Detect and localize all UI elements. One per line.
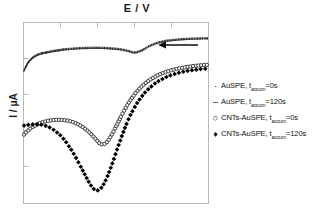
filled-diamond-marker: ♦ bbox=[210, 130, 221, 139]
legend-item-cnts-auspe-0s[interactable]: ○ CNTs-AuSPE, taccum=0s bbox=[210, 110, 329, 126]
legend-label-auspe-120s: AuSPE, taccum=120s bbox=[221, 97, 286, 108]
open-circle-marker: ○ bbox=[210, 114, 221, 123]
legend-label-auspe-0s: AuSPE, taccum=0s bbox=[221, 81, 277, 92]
legend-item-auspe-120s[interactable]: – AuSPE, taccum=120s bbox=[210, 94, 329, 110]
legend-label-cnts-auspe-0s: CNTs-AuSPE, taccum=0s bbox=[221, 113, 298, 124]
legend: · AuSPE, taccum=0s – AuSPE, taccum=120s … bbox=[210, 78, 329, 142]
voltammogram-figure: E / V I / μA · AuSPE, tacc bbox=[0, 0, 329, 215]
tiny-dot-marker: · bbox=[210, 82, 221, 91]
dash-marker: – bbox=[210, 98, 221, 107]
legend-item-cnts-auspe-120s[interactable]: ♦ CNTs-AuSPE, taccum=120s bbox=[210, 126, 329, 142]
legend-item-auspe-0s[interactable]: · AuSPE, taccum=0s bbox=[210, 78, 329, 94]
legend-label-cnts-auspe-120s: CNTs-AuSPE, taccum=120s bbox=[221, 129, 306, 140]
